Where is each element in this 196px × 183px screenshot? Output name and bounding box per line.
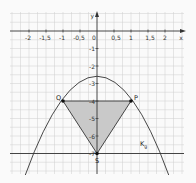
y-tick-label: -5 xyxy=(89,115,95,122)
coordinate-diagram: -2 -1,5 -1 -0,5 0 0,5 1 1,5 2 x y -1 -2 … xyxy=(0,0,196,183)
y-tick-label: -7 xyxy=(89,150,95,157)
y-tick-label: -6 xyxy=(89,133,95,140)
point-s xyxy=(95,152,99,156)
x-tick-label: 1 xyxy=(129,34,133,41)
x-tick-label: 0 xyxy=(92,34,96,41)
x-tick-label: 2 xyxy=(163,34,167,41)
x-tick-label: -1 xyxy=(59,34,65,41)
y-tick-label: -1 xyxy=(89,45,95,52)
x-tick-label: -0,5 xyxy=(73,34,85,41)
y-axis-arrow-icon xyxy=(95,11,99,17)
y-tick-label: -4 xyxy=(89,98,95,105)
y-tick-label: -2 xyxy=(89,63,95,70)
y-tick-label: -3 xyxy=(89,80,95,87)
x-axis-arrow-icon xyxy=(180,29,186,33)
point-q xyxy=(61,99,65,103)
x-tick-label: -2 xyxy=(25,34,31,41)
point-p-label: P xyxy=(134,94,138,102)
x-tick-label: 1,5 xyxy=(145,34,155,41)
curve-label: Kg xyxy=(140,140,147,149)
x-axis-label: x xyxy=(179,34,183,41)
y-axis-label: y xyxy=(90,12,94,20)
x-tick-label: -1,5 xyxy=(39,34,51,41)
point-q-label: Q xyxy=(56,94,61,102)
x-tick-label: 0,5 xyxy=(111,34,121,41)
point-s-label: S xyxy=(95,157,99,165)
point-p xyxy=(129,99,133,103)
